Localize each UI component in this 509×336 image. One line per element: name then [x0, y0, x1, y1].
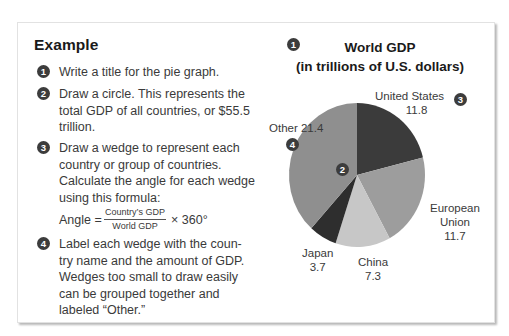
- circle-step-badge: 2: [336, 163, 349, 176]
- label-china: China 7.3: [358, 255, 388, 283]
- label-other: Other 21.4: [269, 121, 323, 135]
- label-value: 11.8: [389, 103, 444, 117]
- label-name: United States: [375, 89, 444, 103]
- label-name: European: [430, 201, 480, 215]
- label-united-states: United States 11.8: [375, 89, 444, 117]
- pie-chart: [0, 0, 509, 336]
- label-name: Japan: [302, 246, 333, 260]
- wedge-step-badge: 3: [454, 93, 467, 106]
- label-european-union: European Union 11.7: [430, 201, 480, 243]
- label-value: 3.7: [302, 260, 333, 274]
- label-value: 11.7: [430, 229, 480, 243]
- label-japan: Japan 3.7: [302, 246, 333, 274]
- label-name: Union: [430, 215, 480, 229]
- label-step-badge: 4: [286, 138, 299, 151]
- label-value: 7.3: [358, 269, 388, 283]
- label-name-value: Other 21.4: [269, 121, 323, 135]
- label-name: China: [358, 255, 388, 269]
